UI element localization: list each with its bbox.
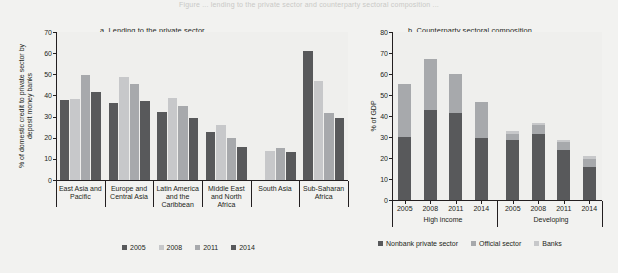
panel-a-bar [178, 106, 188, 180]
panel-a-bar [265, 151, 275, 180]
panel-a-category-separator [202, 181, 203, 207]
panel-b-y-tick [389, 32, 392, 33]
panel-b-bar-segment [583, 156, 596, 159]
panel-b-bar-segment [398, 84, 411, 137]
panel-a-y-tick-label: 20 [28, 134, 52, 141]
panel-b-group-label: High income [392, 216, 494, 223]
panel-a-bar [109, 103, 119, 180]
panel-a-bar [60, 100, 70, 180]
panel-a-bar [303, 51, 313, 180]
panel-b-y-tick-label: 80 [366, 29, 388, 36]
panel-a-y-tick-label: 30 [28, 113, 52, 120]
panel-b-bar-segment [506, 134, 519, 141]
panel-b-y-tick-label: 70 [366, 50, 388, 57]
legend-label: Banks [542, 240, 561, 247]
panel-a-category-label: Sub-Saharan Africa [301, 185, 346, 201]
panel-a-bar [140, 101, 150, 180]
legend-label: Nonbank private sector [386, 240, 458, 247]
figure-container: Figure ... lending to the private sector… [0, 0, 618, 273]
panel-b-group-label: Developing [500, 216, 602, 223]
panel-a-y-tick-label: 60 [28, 50, 52, 57]
panel-a: a. Lending to the private sector % of do… [0, 0, 360, 273]
panel-a-bar [324, 113, 334, 180]
panel-b-year-tick [456, 201, 457, 204]
panel-b-year-label: 2011 [443, 205, 469, 212]
panel-b-year-tick [538, 201, 539, 204]
panel-a-bar [206, 132, 216, 180]
panel-a-bar [91, 92, 101, 180]
panel-b-y-tick [389, 116, 392, 117]
panel-a-category-separator [105, 181, 106, 207]
panel-b-legend-item: Nonbank private sector [378, 240, 458, 247]
panel-a-y-tick-label: 0 [28, 177, 52, 184]
panel-b-y-tick-label: 20 [366, 155, 388, 162]
panel-a-y-tick-label: 70 [28, 29, 52, 36]
panel-a-category-separator [56, 181, 57, 207]
panel-b-y-tick-label: 50 [366, 92, 388, 99]
panel-b-y-tick-label: 30 [366, 134, 388, 141]
panel-a-y-tick-label: 50 [28, 71, 52, 78]
panel-a-legend-item: 2014 [231, 244, 255, 251]
panel-b-bar-segment [532, 125, 545, 134]
panel-a-category-label: East Asia and Pacific [58, 185, 103, 201]
panel-b-year-tick [589, 201, 590, 204]
panel-a-bar [237, 147, 247, 180]
legend-swatch [231, 245, 236, 250]
panel-b-bar-segment [532, 134, 545, 200]
legend-swatch [122, 245, 127, 250]
panel-b-year-tick [481, 201, 482, 204]
panel-b-year-tick [564, 201, 565, 204]
panel-b-bar-segment [506, 131, 519, 134]
panel-b-bar-segment [424, 59, 437, 110]
panel-a-legend-item: 2008 [159, 244, 183, 251]
panel-a-bar [119, 77, 129, 180]
legend-label: 2014 [239, 244, 255, 251]
legend-swatch [378, 241, 383, 246]
panel-b-y-tick-label: 60 [366, 71, 388, 78]
panel-b-y-tick [389, 179, 392, 180]
panel-a-bar [81, 75, 91, 180]
panel-a-y-axis [56, 32, 57, 181]
panel-b-bar-segment [557, 150, 570, 200]
panel-b-year-label: 2005 [392, 205, 418, 212]
panel-b-bar-segment [475, 102, 488, 138]
panel-a-y-tick [53, 95, 56, 96]
panel-b-year-label: 2008 [525, 205, 551, 212]
panel-a-legend-item: 2011 [195, 244, 218, 251]
panel-b-bar-segment [557, 142, 570, 150]
panel-b-bar-segment [532, 123, 545, 125]
panel-b-year-label: 2005 [500, 205, 526, 212]
panel-b-y-tick [389, 53, 392, 54]
legend-label: 2008 [167, 244, 183, 251]
panel-a-y-tick-label: 10 [28, 155, 52, 162]
panel-a-category-separator [299, 181, 300, 207]
panel-a-bar [286, 152, 296, 180]
panel-a-legend: 2005200820112014 [122, 244, 255, 251]
panel-a-bar [189, 118, 199, 180]
panel-a-y-tick [53, 159, 56, 160]
panel-b-year-tick [430, 201, 431, 204]
panel-a-category-label: Middle East and North Africa [204, 185, 249, 210]
panel-b-legend-item: Banks [534, 240, 561, 247]
panel-b-y-tick [389, 137, 392, 138]
panel-b-year-label: 2008 [417, 205, 443, 212]
panel-a-bar [157, 112, 167, 180]
panel-a-bar [130, 84, 140, 180]
panel-b-bar-segment [424, 110, 437, 200]
panel-a-y-tick [53, 117, 56, 118]
legend-label: 2005 [130, 244, 146, 251]
panel-b: b. Counterparty sectoral composition % o… [360, 0, 618, 273]
panel-b-legend-item: Official sector [471, 240, 521, 247]
panel-a-category-label: South Asia [253, 185, 298, 193]
panel-a-bar [216, 125, 226, 180]
panel-a-bar [227, 138, 237, 180]
panel-b-year-label: 2014 [576, 205, 602, 212]
panel-b-bar-segment [398, 137, 411, 200]
legend-swatch [534, 241, 539, 246]
panel-b-year-label: 2014 [468, 205, 494, 212]
panel-a-y-tick [53, 138, 56, 139]
panel-b-bar-segment [475, 138, 488, 200]
panel-b-group-separator [602, 201, 603, 227]
panel-b-year-label: 2011 [551, 205, 577, 212]
panel-b-legend: Nonbank private sectorOfficial sectorBan… [378, 240, 562, 247]
